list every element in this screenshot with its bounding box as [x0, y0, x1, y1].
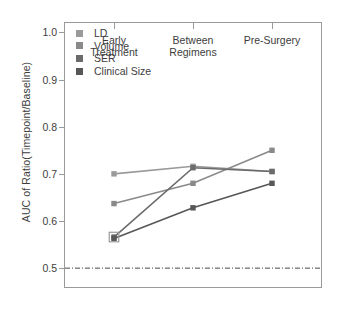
legend-item: Clinical Size — [76, 65, 151, 78]
y-tick-label: 0.6 — [42, 215, 57, 227]
y-tick-mark — [59, 268, 65, 269]
y-tick-label: 1.0 — [42, 26, 57, 38]
y-tick-mark — [59, 221, 65, 222]
legend-swatch-icon — [76, 42, 83, 49]
x-tick-label: Pre-Surgery — [244, 35, 301, 47]
series-line-ser — [114, 168, 272, 237]
y-tick-label: 0.8 — [42, 121, 57, 133]
y-tick-mark — [59, 174, 65, 175]
data-point-marker — [111, 201, 116, 206]
data-point-marker — [190, 205, 195, 210]
data-point-marker — [269, 181, 274, 186]
data-point-marker — [269, 148, 274, 153]
legend-label: Volume — [94, 40, 129, 53]
series-line-volume — [114, 150, 272, 203]
chart-legend: LDVolumeSERClinical Size — [76, 27, 151, 77]
y-tick-label: 0.9 — [42, 74, 57, 86]
legend-label: Clinical Size — [94, 65, 151, 78]
y-tick-label: 0.5 — [42, 262, 57, 274]
legend-label: SER — [94, 52, 116, 65]
chart-figure: AUC of Ratio(Timepoint/Baseline) 0.50.60… — [0, 0, 358, 332]
y-axis-label: AUC of Ratio(Timepoint/Baseline) — [20, 32, 32, 252]
legend-item: LD — [76, 27, 151, 40]
y-tick-label: 0.7 — [42, 168, 57, 180]
legend-label: LD — [94, 27, 107, 40]
x-tick-label: BetweenRegimens — [169, 35, 216, 58]
legend-swatch-icon — [76, 30, 83, 37]
legend-item: Volume — [76, 40, 151, 53]
data-point-marker — [190, 165, 195, 170]
data-point-marker — [111, 236, 116, 241]
legend-item: SER — [76, 52, 151, 65]
y-tick-mark — [59, 127, 65, 128]
y-tick-mark — [59, 32, 65, 33]
data-point-marker — [111, 171, 116, 176]
legend-swatch-icon — [76, 55, 83, 62]
legend-swatch-icon — [76, 68, 83, 75]
y-tick-mark — [59, 80, 65, 81]
data-point-marker — [269, 169, 274, 174]
x-tick-mark — [272, 23, 273, 29]
x-tick-mark — [193, 23, 194, 29]
data-point-marker — [190, 181, 195, 186]
series-line-clinical-size — [114, 183, 272, 238]
